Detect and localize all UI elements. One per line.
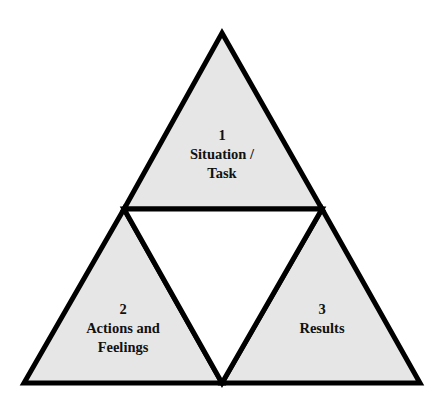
segment-3-title-line1: Results [252,319,392,338]
segment-3-number: 3 [252,300,392,319]
segment-2-title-line2: Feelings [53,338,193,357]
segment-2-number: 2 [53,300,193,319]
segment-2-title-line1: Actions and [53,319,193,338]
segment-1-label: 1 Situation / Task [152,126,292,183]
segment-1-title-line2: Task [152,164,292,183]
segment-1-title-line1: Situation / [152,145,292,164]
segment-1-number: 1 [152,126,292,145]
segment-2-label: 2 Actions and Feelings [53,300,193,357]
segment-3-label: 3 Results [252,300,392,338]
